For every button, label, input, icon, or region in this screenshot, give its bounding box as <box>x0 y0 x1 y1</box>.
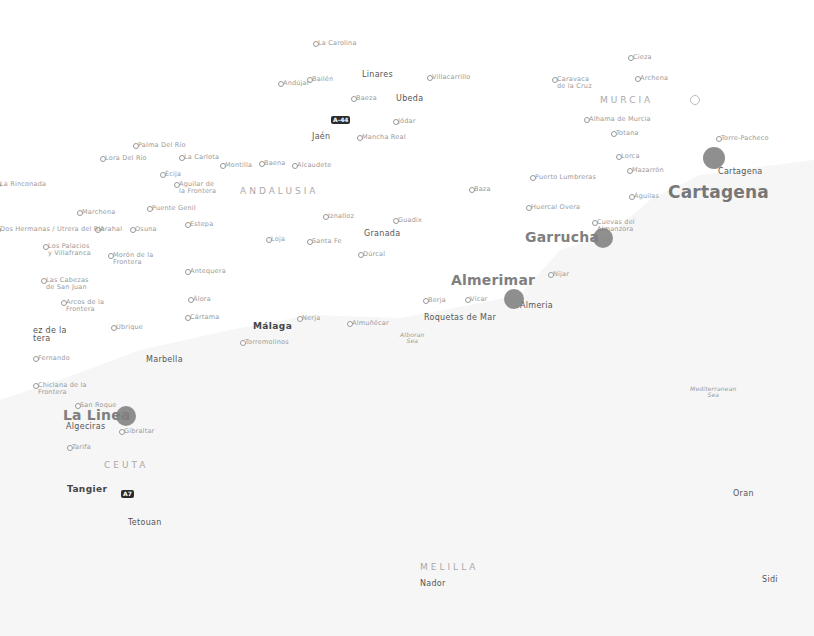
town-label[interactable]: Alhama de Murcia <box>589 116 651 123</box>
town-label[interactable]: Mancha Real <box>362 134 406 141</box>
town-label[interactable]: Fernando <box>38 355 70 362</box>
bubble-label[interactable]: La Linea <box>63 408 130 422</box>
town-label[interactable]: Nerja <box>302 315 320 322</box>
town-label[interactable]: Huercal Overa <box>531 204 580 211</box>
town-label[interactable]: Mazarrón <box>632 167 664 174</box>
city-label[interactable]: Granada <box>364 230 400 238</box>
town-label[interactable]: Berja <box>428 297 446 304</box>
town-label[interactable]: Jódar <box>398 118 416 125</box>
town-label[interactable]: Álora <box>193 296 211 303</box>
city-label[interactable]: Marbella <box>146 356 183 364</box>
city-label[interactable]: Tetouan <box>128 519 162 527</box>
capital-marker-icon <box>690 95 700 105</box>
town-label[interactable]: Las Cabezasde San Juan <box>46 277 89 290</box>
town-label[interactable]: Totana <box>616 130 639 137</box>
bubble-label[interactable]: Cartagena <box>668 184 769 201</box>
town-label[interactable]: La Rinconada <box>0 181 46 188</box>
region-label: CEUTA <box>104 461 149 470</box>
city-label[interactable]: ez de latera <box>33 327 67 343</box>
road-shield-icon: A-44 <box>331 116 350 124</box>
town-label[interactable]: Iznalloz <box>328 213 354 220</box>
map-canvas[interactable]: ANDALUSIAMURCIACEUTAMELILLAAlboranSeaMed… <box>0 0 814 636</box>
town-label[interactable]: Guadix <box>398 217 422 224</box>
town-label[interactable]: Baza <box>474 186 491 193</box>
city-label[interactable]: Oran <box>733 490 754 498</box>
town-label[interactable]: Andújar <box>283 80 310 87</box>
town-label[interactable]: Marchena <box>82 209 116 216</box>
town-label[interactable]: Chiclana de laFrontera <box>38 382 87 395</box>
town-label[interactable]: Puerto Lumbreras <box>535 174 596 181</box>
town-label[interactable]: Aguilar dela Frontera <box>179 181 216 194</box>
city-label[interactable]: Tangier <box>67 485 107 494</box>
town-label[interactable]: Ubrique <box>116 324 143 331</box>
town-label[interactable]: Dúrcal <box>363 251 385 258</box>
town-label[interactable]: Antequera <box>190 268 226 275</box>
town-label[interactable]: Cártama <box>190 314 219 321</box>
town-label[interactable]: Caravacade la Cruz <box>557 76 592 89</box>
town-label[interactable]: Dos Hermanas / Utrera del Río <box>0 226 105 233</box>
town-label[interactable]: Santa Fe <box>312 238 342 245</box>
town-label[interactable]: Estepa <box>190 221 213 228</box>
town-label[interactable]: Palma Del Río <box>138 142 186 149</box>
town-label[interactable]: Montilla <box>225 162 252 169</box>
town-label[interactable]: La Carolina <box>318 40 357 47</box>
town-label[interactable]: Gibraltar <box>124 428 154 435</box>
town-label[interactable]: Torre-Pacheco <box>721 135 769 142</box>
bubble-label[interactable]: Garrucha <box>525 230 599 244</box>
town-label[interactable]: Baena <box>264 160 286 167</box>
bubble-label[interactable]: Almerimar <box>451 273 535 287</box>
city-label[interactable]: Málaga <box>253 322 292 331</box>
town-label[interactable]: Bailén <box>312 76 333 83</box>
town-label[interactable]: Cieza <box>633 54 652 61</box>
town-label[interactable]: Archena <box>640 75 668 82</box>
sea-label: AlboranSea <box>400 332 425 344</box>
town-label[interactable]: Torremolinos <box>245 339 289 346</box>
city-label[interactable]: Ubeda <box>396 95 423 103</box>
city-label[interactable]: Linares <box>362 71 393 79</box>
city-label[interactable]: Almeria <box>520 302 553 310</box>
town-label[interactable]: Lorca <box>621 153 640 160</box>
city-label[interactable]: Nador <box>420 580 446 588</box>
region-label: ANDALUSIA <box>240 187 319 196</box>
town-label[interactable]: Vícar <box>470 296 487 303</box>
city-label[interactable]: Roquetas de Mar <box>424 314 496 322</box>
town-label[interactable]: La Carlota <box>184 154 219 161</box>
town-label[interactable]: Morón de laFrontera <box>113 252 153 265</box>
road-shield-icon: A7 <box>121 490 134 498</box>
town-label[interactable]: Villacarrillo <box>432 74 471 81</box>
town-label[interactable]: Arcos de laFrontera <box>66 299 104 312</box>
town-label[interactable]: Osuna <box>135 226 157 233</box>
town-label[interactable]: Los Palaciosy Villafranca <box>48 243 91 256</box>
sea-label: MediterraneanSea <box>690 386 737 398</box>
town-label[interactable]: Níjar <box>553 271 569 278</box>
town-label[interactable]: Puente Genil <box>152 205 196 212</box>
town-label[interactable]: Baeza <box>356 95 377 102</box>
town-label[interactable]: Loja <box>271 236 285 243</box>
region-label: MELILLA <box>420 563 479 572</box>
region-label: MURCIA <box>600 96 653 105</box>
city-label[interactable]: Sidi <box>762 576 778 584</box>
town-label[interactable]: Almuñécar <box>352 320 389 327</box>
town-label[interactable]: Águilas <box>634 193 659 200</box>
city-label[interactable]: Cartagena <box>718 168 763 176</box>
town-label[interactable]: Tarifa <box>72 444 91 451</box>
data-bubble-marker[interactable] <box>703 147 725 169</box>
town-label[interactable]: Alcaudete <box>297 162 331 169</box>
city-label[interactable]: Algeciras <box>66 423 105 431</box>
city-label[interactable]: Jaén <box>312 133 330 141</box>
town-label[interactable]: Lora Del Río <box>105 155 147 162</box>
town-label[interactable]: Écija <box>165 171 181 178</box>
data-bubble-marker[interactable] <box>504 289 524 309</box>
